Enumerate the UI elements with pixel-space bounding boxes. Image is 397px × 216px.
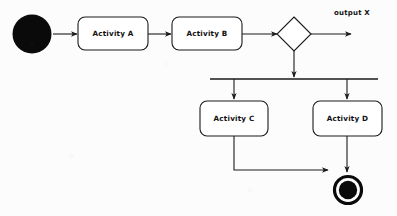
activity-c-label: Activity C	[214, 114, 255, 123]
initial-node	[13, 15, 52, 54]
activity-b-label: Activity B	[187, 29, 228, 38]
final-node	[339, 181, 357, 199]
decision-node	[277, 17, 311, 51]
activity-a-label: Activity A	[92, 29, 133, 38]
edge-activity-c-to-final	[234, 136, 328, 170]
output-x-label: output X	[334, 9, 370, 17]
activity-d-label: Activity D	[327, 114, 368, 123]
activity-diagram-canvas: Activity A Activity B output X Activity …	[0, 0, 397, 216]
activity-diagram-svg: Activity A Activity B output X Activity …	[0, 0, 397, 216]
